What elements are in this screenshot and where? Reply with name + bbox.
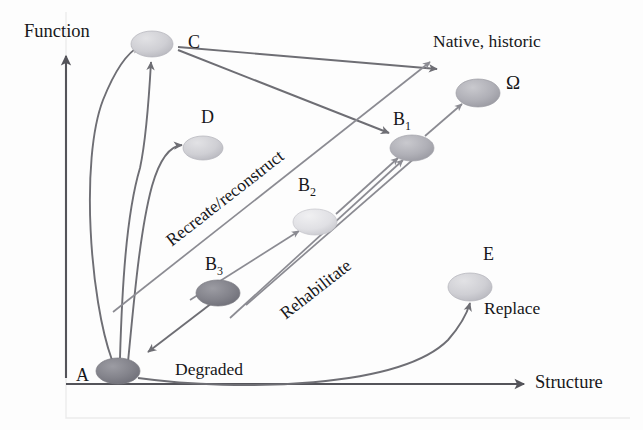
figure-canvas: Function Structure Native, historic Degr… (0, 0, 643, 430)
node-ellipse-D[interactable] (183, 136, 223, 160)
node-label-C-text: C (188, 32, 200, 52)
state-label-degraded: Degraded (175, 361, 243, 379)
node-label-C: C (188, 33, 200, 51)
node-label-B1-text: B (393, 109, 405, 129)
node-label-B1-sub: 1 (405, 119, 411, 133)
state-label-native-historic: Native, historic (433, 33, 541, 51)
node-ellipse-C[interactable] (131, 31, 173, 57)
transition-b1-to-omega (425, 104, 462, 136)
node-label-Omega-text: Ω (506, 72, 520, 93)
node-ellipse-E[interactable] (448, 273, 492, 301)
transition-a-to-d (128, 145, 182, 362)
node-label-E-text: E (483, 244, 494, 264)
node-label-A: A (76, 366, 89, 384)
diagram-svg (0, 0, 643, 430)
node-ellipse-A[interactable] (96, 358, 140, 384)
node-label-B3-text: B (205, 254, 217, 274)
node-label-D-text: D (201, 107, 214, 127)
transition-b2-to-b1 (336, 158, 398, 214)
node-label-B2-text: B (298, 175, 310, 195)
node-label-B3-sub: 3 (217, 264, 223, 278)
node-label-A-text: A (76, 365, 89, 385)
x-axis-label: Structure (535, 373, 603, 392)
node-label-E: E (483, 245, 494, 263)
state-label-replace: Replace (484, 300, 540, 318)
node-ellipse-B3[interactable] (196, 280, 240, 306)
node-ellipse-B1[interactable] (390, 135, 434, 161)
node-label-B3: B3 (205, 255, 223, 277)
node-label-Omega: Ω (506, 73, 520, 92)
node-ellipse-B2[interactable] (293, 209, 337, 235)
node-label-B2: B2 (298, 176, 316, 198)
y-axis-label: Function (24, 22, 90, 41)
node-label-D: D (201, 108, 214, 126)
node-ellipse-Omega[interactable] (456, 79, 500, 107)
node-label-B1: B1 (393, 110, 411, 132)
node-label-B2-sub: 2 (310, 185, 316, 199)
transition-b3-to-a (148, 303, 212, 352)
